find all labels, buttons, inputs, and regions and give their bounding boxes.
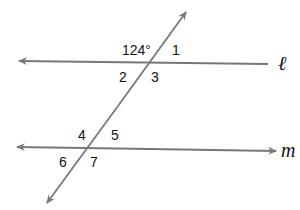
- line-m: [17, 147, 150, 149]
- geometry-diagram: ℓ m 124° 1 2 3 4 5 6 7: [0, 0, 300, 210]
- angle-label-124: 124°: [122, 42, 151, 58]
- line-l: [19, 61, 268, 64]
- angle-label-3: 3: [151, 69, 159, 85]
- line-m-label: m: [281, 139, 295, 161]
- line-m-right: [150, 149, 276, 151]
- line-l-label: ℓ: [278, 52, 287, 74]
- transversal-up: [118, 12, 186, 106]
- angle-label-1: 1: [172, 42, 180, 58]
- angle-label-6: 6: [59, 154, 67, 170]
- angle-label-2: 2: [119, 69, 127, 85]
- angle-label-5: 5: [111, 127, 119, 143]
- angle-label-4: 4: [78, 127, 86, 143]
- transversal-down: [47, 106, 118, 203]
- angle-label-7: 7: [90, 154, 98, 170]
